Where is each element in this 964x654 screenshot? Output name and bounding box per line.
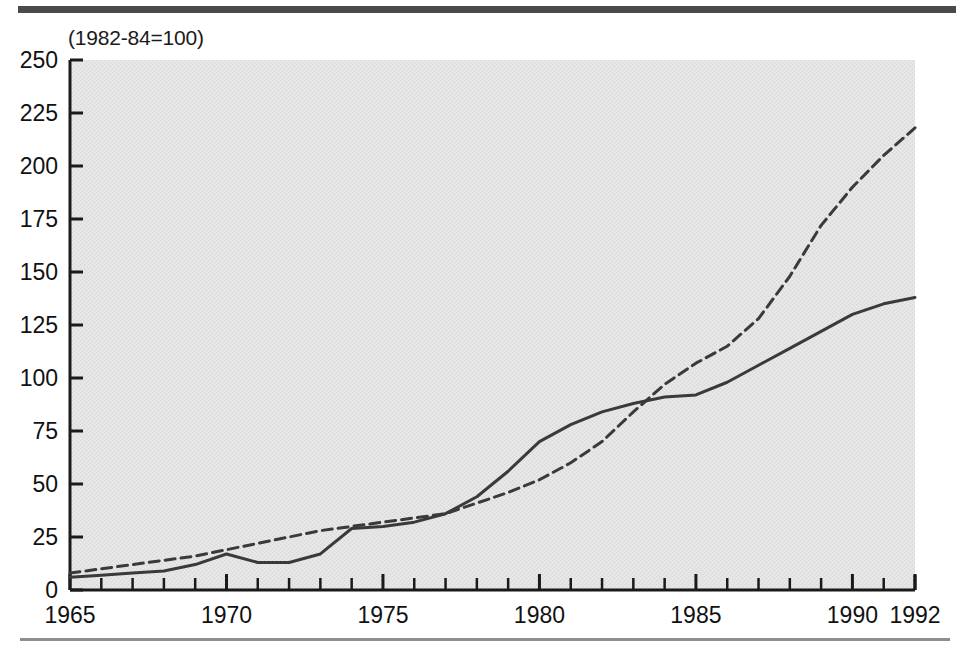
plot-area-wrapper: 0255075100125150175200225250 19651970197… bbox=[0, 0, 964, 654]
line-chart: 0255075100125150175200225250 19651970197… bbox=[0, 0, 964, 654]
y-tick-label: 75 bbox=[32, 418, 58, 444]
y-tick-label: 50 bbox=[32, 471, 58, 497]
x-tick-label: 1965 bbox=[44, 602, 95, 628]
y-tick-label: 150 bbox=[20, 259, 58, 285]
y-tick-label: 25 bbox=[32, 524, 58, 550]
bottom-rule bbox=[20, 638, 950, 641]
x-tick-label: 1992 bbox=[889, 602, 940, 628]
y-tick-label: 225 bbox=[20, 100, 58, 126]
x-tick-label: 1990 bbox=[827, 602, 878, 628]
x-tick-label: 1980 bbox=[514, 602, 565, 628]
x-tick-label: 1985 bbox=[670, 602, 721, 628]
x-axis-tick-labels: 1965197019751980198519901992 bbox=[44, 602, 940, 628]
y-tick-label: 175 bbox=[20, 206, 58, 232]
y-axis-tick-labels: 0255075100125150175200225250 bbox=[20, 47, 58, 603]
y-tick-label: 200 bbox=[20, 153, 58, 179]
x-tick-label: 1975 bbox=[357, 602, 408, 628]
figure-root: (1982-84=100) 02550751001251501752002252… bbox=[0, 0, 964, 654]
plot-background bbox=[70, 60, 915, 590]
y-tick-label: 250 bbox=[20, 47, 58, 73]
y-tick-label: 125 bbox=[20, 312, 58, 338]
x-tick-label: 1970 bbox=[201, 602, 252, 628]
y-tick-label: 0 bbox=[45, 577, 58, 603]
y-tick-label: 100 bbox=[20, 365, 58, 391]
